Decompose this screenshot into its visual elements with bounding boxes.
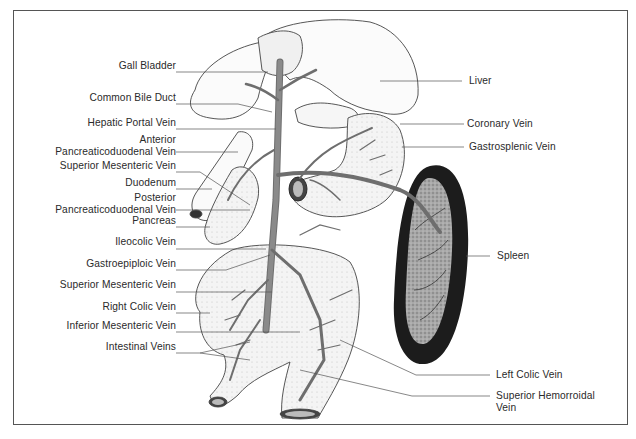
label-gall-bladder: Gall Bladder xyxy=(119,60,176,72)
label-superior-hemorroidal-vein: Superior HemorroidalVein xyxy=(496,390,595,414)
label-inferior-mesenteric-vein: Inferior Mesenteric Vein xyxy=(67,320,176,332)
label-spleen: Spleen xyxy=(497,250,529,262)
liver-shape xyxy=(190,20,418,128)
label-anterior-pancreaticoduodenal-vein: AnteriorPancreaticoduodenal Vein xyxy=(55,134,176,158)
label-superior-mesenteric-vein-lower: Superior Mesenteric Vein xyxy=(60,279,176,291)
label-duodenum: Duodenum xyxy=(125,177,176,189)
label-pancreas: Pancreas xyxy=(132,215,176,227)
stomach-shape xyxy=(289,114,404,217)
label-posterior-pancreaticoduodenal-vein: PosteriorPancreaticoduodenal Vein xyxy=(55,192,176,216)
label-coronary-vein: Coronary Vein xyxy=(467,118,533,130)
label-intestinal-veins: Intestinal Veins xyxy=(106,341,176,353)
label-gastroepiploic-vein: Gastroepiploic Vein xyxy=(86,258,176,270)
label-liver: Liver xyxy=(469,75,492,87)
label-left-colic-vein: Left Colic Vein xyxy=(496,369,563,381)
label-superior-mesenteric-vein-upper: Superior Mesenteric Vein xyxy=(60,160,176,172)
label-ileocolic-vein: Ileocolic Vein xyxy=(115,236,176,248)
spleen-shape xyxy=(394,165,468,364)
label-hepatic-portal-vein: Hepatic Portal Vein xyxy=(87,117,176,129)
label-common-bile-duct: Common Bile Duct xyxy=(89,92,176,104)
label-gastrosplenic-vein: Gastrosplenic Vein xyxy=(469,141,556,153)
label-right-colic-vein: Right Colic Vein xyxy=(102,301,176,313)
